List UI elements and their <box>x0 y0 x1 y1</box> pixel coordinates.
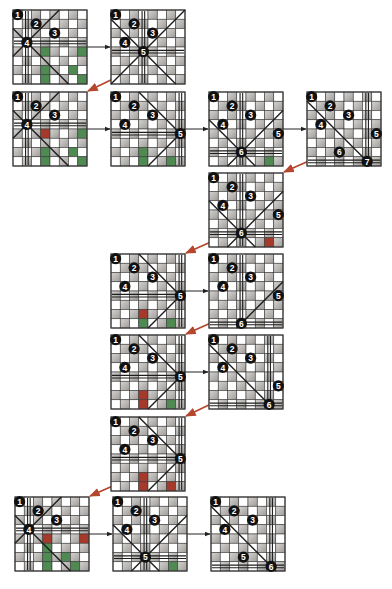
queen-label: 1 <box>211 335 216 345</box>
board-cell-light <box>255 354 264 363</box>
board-cell-light <box>120 129 129 138</box>
queen-label: 6 <box>337 147 342 157</box>
board-cell-dark <box>130 92 139 101</box>
board-cell-light <box>80 553 89 562</box>
board-b11: 123456 <box>208 334 284 410</box>
board-cell-light <box>176 254 185 263</box>
queen-marker: 2 <box>325 100 336 111</box>
board-cell-light <box>113 506 122 515</box>
board-cell-dark <box>41 120 50 129</box>
board-cell-dark <box>335 120 344 129</box>
queen-marker: 3 <box>147 110 158 121</box>
board-cell-dark <box>59 19 68 28</box>
board-cell-light <box>139 129 148 138</box>
board-cell-dark <box>139 300 148 309</box>
board-cell-light <box>274 335 283 344</box>
board-cell-light <box>276 534 285 543</box>
board-cell-light <box>372 148 381 157</box>
board-cell-dark <box>120 426 129 435</box>
board-cell-light <box>43 516 52 525</box>
board-cell-light <box>120 354 129 363</box>
board-cell-dark <box>80 506 89 515</box>
board-cell-dark <box>32 148 41 157</box>
board-cell-light <box>353 92 362 101</box>
board-cell-dark <box>78 56 87 65</box>
board-cell-light <box>61 534 70 543</box>
queen-label: 2 <box>132 19 137 29</box>
queen-marker: 5 <box>175 128 186 139</box>
board-cell-dark <box>265 210 274 219</box>
queen-label: 2 <box>36 506 41 516</box>
board-cell-light <box>130 319 139 328</box>
board-cell-dark <box>157 363 166 372</box>
board-cell-dark <box>130 473 139 482</box>
board-cell-dark <box>148 10 157 19</box>
board-cell-light <box>78 148 87 157</box>
board-cell-dark <box>167 310 176 319</box>
queen-label: 3 <box>150 28 155 38</box>
board-cell-light <box>111 300 120 309</box>
queen-marker: 2 <box>31 18 42 29</box>
board-cell-light <box>176 473 185 482</box>
board-cell-dark <box>237 120 246 129</box>
queen-label: 1 <box>17 497 22 507</box>
board-cell-light <box>237 354 246 363</box>
board-cell-dark <box>265 173 274 182</box>
queen-label: 1 <box>113 335 118 345</box>
board-cell-dark <box>50 129 59 138</box>
board-cell-light <box>316 92 325 101</box>
board-cell-light <box>15 525 24 534</box>
board-b1: 1234 <box>12 9 87 84</box>
queen-marker: 1 <box>112 496 123 507</box>
board-cell-dark <box>132 553 141 562</box>
board-cell-dark <box>78 38 87 47</box>
board-cell-dark <box>69 29 78 38</box>
board-cell-light <box>141 534 150 543</box>
board-cell-light <box>22 92 31 101</box>
board-cell-light <box>267 506 276 515</box>
board-cell-dark <box>139 101 148 110</box>
board-cell-dark <box>167 391 176 400</box>
board-cell-dark <box>237 344 246 353</box>
board-cell-light <box>209 138 218 147</box>
board-cell-dark <box>246 148 255 157</box>
board-cell-light <box>69 138 78 147</box>
board-cell-light <box>265 182 274 191</box>
board-cell-green <box>139 319 148 328</box>
board-cell-dark <box>220 562 229 571</box>
queen-marker: 5 <box>140 552 151 563</box>
board-cell-light <box>157 10 166 19</box>
board-cell-dark <box>265 254 274 263</box>
board-cell-dark <box>209 229 218 238</box>
board-cell-dark <box>176 19 185 28</box>
board-cell-light <box>255 229 264 238</box>
board-cell-light <box>43 497 52 506</box>
board-cell-light <box>176 436 185 445</box>
queen-label: 4 <box>221 363 226 373</box>
board-cell-light <box>220 553 229 562</box>
board-cell-dark <box>148 291 157 300</box>
board-cell-light <box>209 319 218 328</box>
board-b9: 123456 <box>208 253 284 329</box>
board-cell-light <box>239 516 248 525</box>
board-cell-dark <box>246 229 255 238</box>
queen-marker: 5 <box>175 371 186 382</box>
board-cell-dark <box>248 553 257 562</box>
board-cell-dark <box>176 319 185 328</box>
board-cell-light <box>265 319 274 328</box>
board-b13: 1234 <box>14 496 89 571</box>
board-cell-dark <box>176 381 185 390</box>
board-cell-light <box>237 335 246 344</box>
board-cell-light <box>15 543 24 552</box>
board-cell-light <box>78 29 87 38</box>
board-cell-dark <box>255 201 264 210</box>
queen-label: 3 <box>54 515 59 525</box>
queen-marker: 3 <box>245 272 256 283</box>
queen-label: 4 <box>123 38 128 48</box>
board-cell-light <box>78 92 87 101</box>
board-cell-light <box>274 310 283 319</box>
board-cell-green <box>69 66 78 75</box>
board-cell-dark <box>176 282 185 291</box>
board-cell-dark <box>167 47 176 56</box>
board-cell-light <box>220 534 229 543</box>
